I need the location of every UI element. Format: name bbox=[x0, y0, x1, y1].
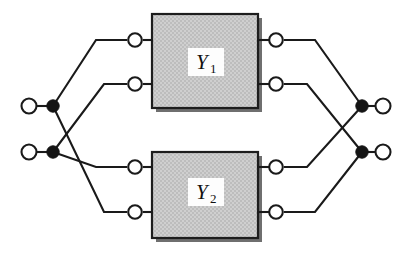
network-block-y2[interactable]: Y 2 bbox=[152, 152, 262, 242]
network-block-y1[interactable]: Y 1 bbox=[152, 14, 262, 112]
output-junction-top bbox=[356, 100, 368, 112]
input-junction-bottom bbox=[47, 146, 59, 158]
y2-right-port-bottom[interactable] bbox=[269, 205, 283, 219]
circuit-canvas: Y 1 Y 2 bbox=[0, 0, 412, 260]
output-terminal-bottom[interactable] bbox=[376, 145, 391, 160]
y2-left-port-bottom[interactable] bbox=[128, 205, 142, 219]
right-wiring-group bbox=[284, 40, 375, 212]
y1-right-port-top[interactable] bbox=[269, 33, 283, 47]
output-terminal-top[interactable] bbox=[376, 99, 391, 114]
input-junction-top bbox=[47, 100, 59, 112]
y1-left-port-top[interactable] bbox=[128, 33, 142, 47]
y2-right-port-top[interactable] bbox=[269, 160, 283, 174]
circuit-diagram-figure: Y 1 Y 2 bbox=[0, 0, 412, 260]
output-junction-bottom bbox=[356, 146, 368, 158]
wire-in-top-to-y1-port1 bbox=[53, 40, 127, 106]
y1-left-port-bottom[interactable] bbox=[128, 77, 142, 91]
left-wiring-group bbox=[37, 40, 127, 212]
y2-left-port-top[interactable] bbox=[128, 160, 142, 174]
wire-y2-port4-to-out-bottom bbox=[284, 152, 362, 212]
y1-right-port-bottom[interactable] bbox=[269, 77, 283, 91]
wire-in-bottom-to-y2-port1 bbox=[53, 152, 127, 167]
wire-in-top-to-y2-port2 bbox=[53, 106, 127, 212]
y1-label-subscript: 1 bbox=[210, 61, 217, 76]
wire-in-bottom-to-y1-port2 bbox=[53, 84, 127, 152]
y2-label-subscript: 2 bbox=[210, 191, 217, 206]
wire-y1-port3-to-out-top bbox=[284, 40, 362, 106]
input-terminal-top[interactable] bbox=[22, 99, 37, 114]
input-terminal-bottom[interactable] bbox=[22, 145, 37, 160]
